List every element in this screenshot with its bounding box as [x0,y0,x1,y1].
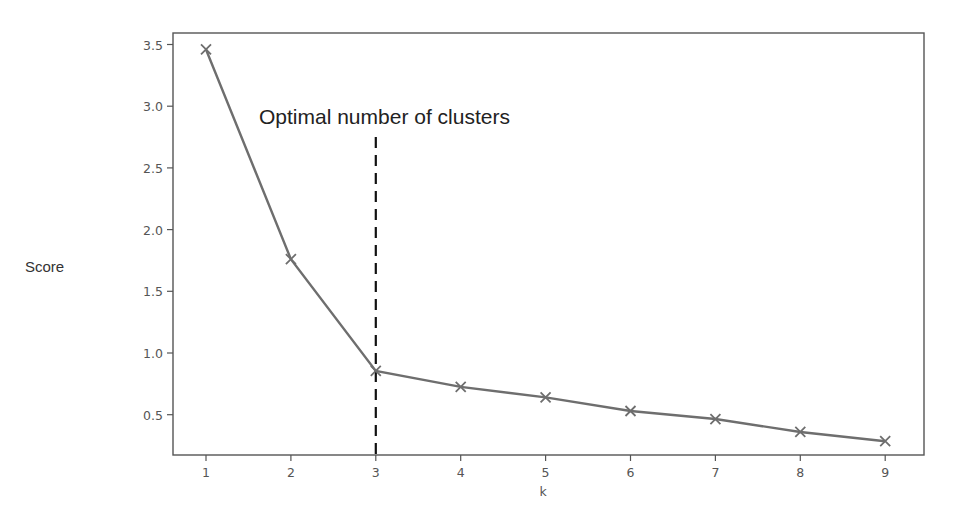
optimal-clusters-annotation: Optimal number of clusters [259,105,510,128]
y-axis-label: Score [25,258,64,275]
x-tick-label: 3 [372,465,380,480]
x-tick-label: 2 [287,465,295,480]
y-tick-label: 3.0 [143,99,163,114]
elbow-chart: 0.51.01.52.02.53.03.5 123456789 Optimal … [0,0,958,524]
x-tick-label: 5 [542,465,550,480]
x-marker-icon [286,254,296,264]
x-marker-icon [201,44,211,54]
x-tick-label: 6 [627,465,635,480]
x-tick-label: 1 [202,465,210,480]
y-axis-ticks: 0.51.01.52.02.53.03.5 [143,38,173,423]
x-tick-label: 9 [881,465,889,480]
x-axis-label: k [539,484,547,499]
x-tick-label: 4 [457,465,465,480]
y-tick-label: 3.5 [143,38,163,53]
x-axis-ticks: 123456789 [202,455,889,480]
y-tick-label: 2.0 [143,223,163,238]
y-tick-label: 0.5 [143,408,163,423]
y-tick-label: 1.0 [143,346,163,361]
x-tick-label: 7 [711,465,719,480]
x-tick-label: 8 [796,465,804,480]
y-tick-label: 1.5 [143,284,163,299]
y-tick-label: 2.5 [143,161,163,176]
